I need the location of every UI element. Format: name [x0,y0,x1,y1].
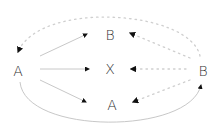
node-bottom-a: A [107,98,117,112]
edge-b-to-b [130,33,190,58]
edge-a-to-b [40,34,87,56]
node-left-a: A [13,64,23,78]
node-center-x: X [105,62,115,76]
node-top-b: B [105,28,114,42]
edge-b-to-a [133,80,190,102]
diagram-canvas: A B X A B [0,0,215,131]
node-right-b: B [198,64,207,78]
edge-a-to-a [40,80,86,102]
